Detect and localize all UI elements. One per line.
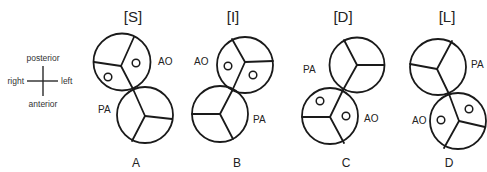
panel-footer: C (342, 156, 351, 170)
compass-label-left: left (61, 76, 73, 86)
aortic-valve-circle (94, 34, 151, 91)
pulmonary-valve-circle (192, 86, 248, 142)
panel-footer: B (233, 156, 241, 170)
pa-label: PA (303, 64, 316, 75)
pulmonary-valve-circle (117, 87, 173, 143)
pa-label: PA (98, 104, 111, 115)
panel-header: [L] (439, 8, 456, 25)
coronary-ostium-icon (224, 62, 232, 70)
aortic-valve-circle (430, 93, 486, 149)
panel-d-l: [L] PA AO D (410, 8, 486, 170)
pulmonary-valve-circle (330, 38, 385, 93)
panel-b-i: [I] AO PA B (192, 8, 273, 170)
coronary-ostium-icon (249, 71, 257, 79)
ao-label: AO (412, 115, 427, 126)
great-arteries-diagram: posterior right left anterior [S] AO PA … (0, 0, 487, 172)
ao-label: AO (158, 56, 173, 67)
coronary-ostium-icon (316, 97, 324, 105)
pulmonary-valve-circle (410, 39, 466, 95)
compass-label-right: right (7, 76, 24, 86)
diagram-canvas: posterior right left anterior [S] AO PA … (0, 0, 487, 172)
ao-label: AO (364, 113, 379, 124)
ao-label: AO (194, 56, 209, 67)
coronary-ostium-icon (132, 59, 140, 67)
aortic-valve-circle (302, 88, 358, 144)
panel-footer: A (132, 156, 140, 170)
compass-label-anterior: anterior (29, 99, 58, 109)
coronary-ostium-icon (465, 105, 473, 113)
pa-label: PA (471, 59, 484, 70)
panel-header: [I] (227, 8, 240, 25)
panel-c-d: [D] PA AO C (302, 8, 385, 170)
panel-header: [D] (333, 8, 352, 25)
compass-label-posterior: posterior (26, 53, 59, 63)
coronary-ostium-icon (342, 112, 350, 120)
orientation-compass: posterior right left anterior (7, 53, 73, 109)
coronary-ostium-icon (104, 73, 112, 81)
pa-label: PA (253, 114, 266, 125)
aortic-valve-circle (217, 37, 273, 93)
panel-a-s: [S] AO PA A (94, 8, 174, 170)
coronary-ostium-icon (437, 116, 445, 124)
panel-footer: D (445, 156, 454, 170)
panel-header: [S] (124, 8, 142, 25)
